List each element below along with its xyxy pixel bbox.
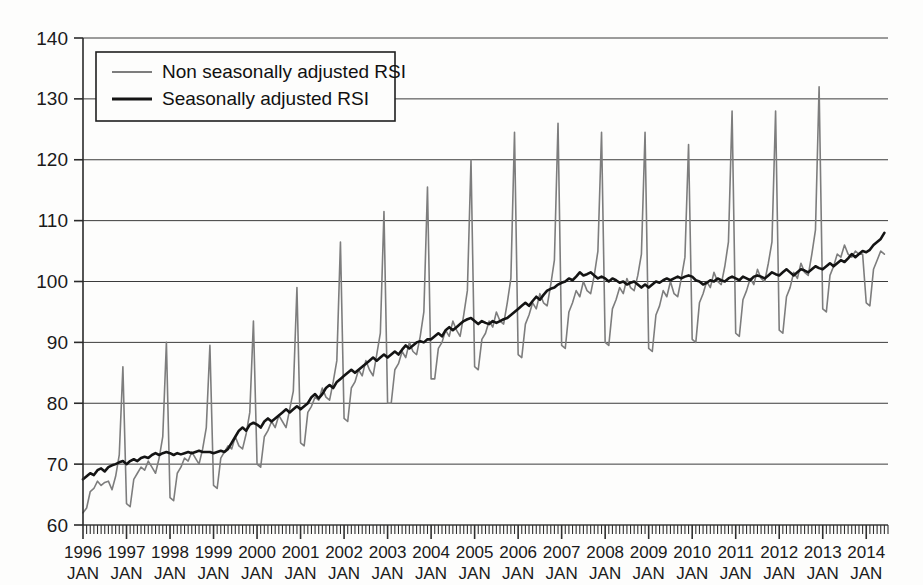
- x-axis-year-label: 2009: [630, 543, 668, 562]
- x-axis-year-label: 1998: [151, 543, 189, 562]
- y-axis-tick-label: 70: [47, 454, 68, 475]
- rsi-line-chart: 60708090100110120130140 1996JAN1997JAN19…: [0, 0, 923, 585]
- y-axis-tick-label: 130: [36, 88, 68, 109]
- x-axis-month-label: JAN: [459, 564, 491, 583]
- chart-legend: Non seasonally adjusted RSISeasonally ad…: [96, 52, 406, 121]
- x-axis-year-label: 1999: [195, 543, 233, 562]
- x-axis-month-label: JAN: [676, 564, 708, 583]
- x-axis-year-label: 2012: [760, 543, 798, 562]
- x-axis-year-label: 1996: [64, 543, 102, 562]
- x-axis-month-label: JAN: [807, 564, 839, 583]
- y-axis-tick-label: 120: [36, 149, 68, 170]
- x-axis-month-label: JAN: [720, 564, 752, 583]
- x-axis-month-label: JAN: [241, 564, 273, 583]
- x-axis-month-label: JAN: [328, 564, 360, 583]
- x-axis-month-label: JAN: [633, 564, 665, 583]
- x-axis-month-label: JAN: [154, 564, 186, 583]
- y-axis-tick-label: 80: [47, 393, 68, 414]
- x-axis-year-label: 2005: [456, 543, 494, 562]
- x-axis-year-label: 2007: [543, 543, 581, 562]
- x-axis-year-label: 2010: [673, 543, 711, 562]
- x-axis-year-label: 1997: [108, 543, 146, 562]
- x-axis-month-label: JAN: [763, 564, 795, 583]
- legend-label: Seasonally adjusted RSI: [162, 88, 369, 109]
- y-axis-tick-label: 110: [38, 210, 68, 231]
- y-axis-tick-label: 100: [36, 271, 68, 292]
- x-axis-year-label: 2003: [369, 543, 407, 562]
- x-axis-year-label: 2014: [847, 543, 885, 562]
- y-axis-tick-label: 90: [47, 332, 68, 353]
- x-axis-year-label: 2008: [586, 543, 624, 562]
- x-axis-year-label: 2001: [282, 543, 320, 562]
- x-axis-month-label: JAN: [372, 564, 404, 583]
- x-axis-month-label: JAN: [415, 564, 447, 583]
- y-axis-tick-label: 140: [36, 28, 68, 49]
- x-axis-year-label: 2004: [412, 543, 450, 562]
- x-axis-year-label: 2013: [804, 543, 842, 562]
- x-axis-year-label: 2011: [717, 543, 754, 562]
- chart-canvas: 60708090100110120130140 1996JAN1997JAN19…: [0, 0, 923, 585]
- x-axis-year-label: 2000: [238, 543, 276, 562]
- x-axis-month-label: JAN: [850, 564, 882, 583]
- legend-label: Non seasonally adjusted RSI: [162, 61, 406, 82]
- x-axis-month-label: JAN: [197, 564, 229, 583]
- x-axis-month-label: JAN: [285, 564, 317, 583]
- x-axis-year-label: 2002: [325, 543, 363, 562]
- x-axis-month-label: JAN: [502, 564, 534, 583]
- x-axis-month-label: JAN: [110, 564, 142, 583]
- x-axis-month-label: JAN: [589, 564, 621, 583]
- x-axis-month-label: JAN: [546, 564, 578, 583]
- x-axis-month-label: JAN: [67, 564, 99, 583]
- y-axis-tick-label: 60: [47, 515, 68, 536]
- x-axis-year-label: 2006: [499, 543, 537, 562]
